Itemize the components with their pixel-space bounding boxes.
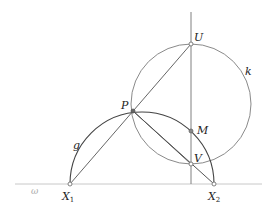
label-x1-sub: 1	[70, 196, 74, 204]
label-x1: X1	[61, 190, 74, 204]
label-k: k	[245, 65, 252, 78]
point-v	[189, 162, 193, 166]
point-x2	[212, 182, 216, 186]
segment-x1-u	[70, 44, 191, 184]
semicircle-g	[70, 112, 214, 184]
geometry-diagram: U P M V k g ω X1 X2	[0, 0, 276, 210]
point-m	[189, 129, 193, 133]
label-g: g	[73, 139, 80, 152]
point-p	[131, 109, 135, 113]
label-u: U	[194, 31, 204, 44]
label-p: P	[120, 99, 129, 112]
label-omega: ω	[31, 186, 39, 196]
label-m: M	[196, 124, 209, 137]
point-u	[189, 42, 193, 46]
point-x1	[68, 182, 72, 186]
label-x2: X2	[207, 190, 220, 204]
label-v: V	[194, 152, 203, 165]
label-x2-sub: 2	[216, 196, 220, 204]
